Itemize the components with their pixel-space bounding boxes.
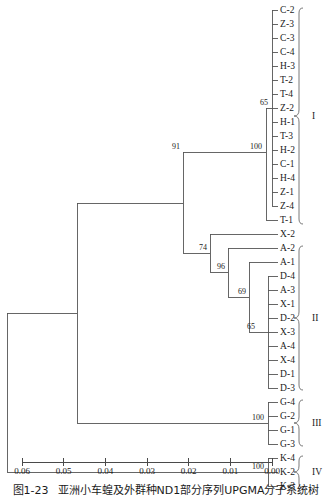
leaf-label-t-2: T-2 (280, 75, 293, 85)
bootstrap-clade3-100: 100 (242, 414, 264, 422)
leaf-label-z-1: Z-1 (280, 187, 294, 197)
leaf-label-g-2: G-2 (280, 411, 295, 421)
leaf-label-c-4: C-4 (280, 47, 295, 57)
axis-tick-0.04: 0.04 (97, 466, 113, 476)
leaf-label-z-4: Z-4 (280, 201, 294, 211)
leaf-label-h-4: H-4 (280, 173, 295, 183)
leaf-label-x-3: X-3 (280, 327, 295, 337)
leaf-label-x-4: X-4 (280, 355, 295, 365)
axis-tick-0.03: 0.03 (139, 466, 155, 476)
figure-caption-number: 图1-23 (13, 484, 49, 497)
leaf-label-a-3: A-3 (280, 285, 295, 295)
clade-label-i: I (312, 111, 315, 121)
leaf-label-g-3: G-3 (280, 439, 295, 449)
axis-tick-0.05: 0.05 (56, 466, 72, 476)
distance-axis: 0.06 0.05 0.04 0.03 0.02 0.01 0.00 (0, 455, 332, 481)
figure-caption: 图1-23亚洲小车蝗及外群种ND1部分序列UPGMA分子系统树 (0, 481, 332, 497)
bootstrap-clade2-65: 65 (238, 323, 255, 331)
leaf-label-z-2: Z-2 (280, 103, 294, 113)
leaf-label-t-3: T-3 (280, 131, 293, 141)
axis-tick-0.06: 0.06 (14, 466, 30, 476)
leaf-label-t-4: T-4 (280, 89, 293, 99)
leaf-label-h-2: H-2 (280, 145, 295, 155)
leaf-label-d-1: D-1 (280, 369, 295, 379)
leaf-label-t-1: T-1 (280, 215, 293, 225)
leaf-label-d-3: D-3 (280, 383, 295, 393)
axis-tick-0.02: 0.02 (181, 466, 197, 476)
bootstrap-node-91: 91 (163, 143, 180, 151)
leaf-label-c-3: C-3 (280, 33, 295, 43)
figure-caption-text: 亚洲小车蝗及外群种ND1部分序列UPGMA分子系统树 (58, 484, 320, 497)
leaf-label-x-2: X-2 (280, 229, 295, 239)
leaf-label-g-4: G-4 (280, 397, 295, 407)
clade-label-ii: II (312, 313, 318, 323)
leaf-label-h-1: H-1 (280, 117, 295, 127)
clade-label-iii: III (312, 418, 322, 428)
leaf-label-d-2: D-2 (280, 313, 295, 323)
axis-line (0, 455, 332, 469)
leaf-label-d-4: D-4 (280, 271, 295, 281)
leaf-label-x-1: X-1 (280, 299, 295, 309)
phylogenetic-tree-figure: C-2 Z-3 C-3 C-4 H-3 T-2 T-4 Z-2 H-1 T-3 … (0, 0, 332, 498)
bootstrap-clade2-69: 69 (229, 288, 246, 296)
bootstrap-clade1-100: 100 (240, 143, 262, 151)
leaf-label-z-3: Z-3 (280, 19, 294, 29)
bootstrap-clade2-96: 96 (208, 263, 225, 271)
axis-tick-0.00: 0.00 (264, 466, 280, 476)
leaf-label-a-1: A-1 (280, 257, 295, 267)
leaf-label-a-2: A-2 (280, 243, 295, 253)
leaf-label-c-2: C-2 (280, 5, 295, 15)
leaf-label-c-1: C-1 (280, 159, 295, 169)
leaf-label-a-4: A-4 (280, 341, 295, 351)
axis-tick-0.01: 0.01 (222, 466, 238, 476)
leaf-label-h-3: H-3 (280, 61, 295, 71)
bootstrap-node-74: 74 (190, 244, 207, 252)
bootstrap-clade1-65: 65 (246, 99, 268, 107)
leaf-label-g-1: G-1 (280, 425, 295, 435)
